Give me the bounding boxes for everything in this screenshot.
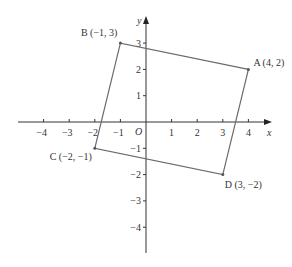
x-tick-label: 2 bbox=[195, 127, 200, 138]
x-tick-label: 3 bbox=[220, 127, 225, 138]
y-tick-label: −3 bbox=[130, 195, 141, 206]
vertex-c-label: C (−2, −1) bbox=[50, 151, 92, 163]
x-tick-label: −4 bbox=[36, 127, 47, 138]
vertices: A (4, 2)B (−1, 3)C (−2, −1)D (3, −2) bbox=[50, 27, 285, 191]
x-tick-label: 4 bbox=[246, 127, 251, 138]
vertex-d-label: D (3, −2) bbox=[225, 179, 262, 191]
vertex-c-dot bbox=[93, 147, 96, 150]
axes bbox=[18, 16, 272, 253]
vertex-a-label: A (4, 2) bbox=[253, 57, 284, 69]
x-tick-label: −1 bbox=[113, 127, 124, 138]
x-axis-arrow-icon bbox=[264, 119, 272, 125]
x-tick-label: −3 bbox=[62, 127, 73, 138]
y-tick-label: 1 bbox=[136, 90, 141, 101]
x-axis-label: x bbox=[266, 127, 272, 138]
y-tick-label: −4 bbox=[130, 222, 141, 233]
vertex-b-label: B (−1, 3) bbox=[81, 27, 117, 39]
y-tick-label: −1 bbox=[130, 143, 141, 154]
vertex-d-dot bbox=[221, 173, 224, 176]
y-axis-arrow-icon bbox=[143, 16, 149, 24]
origin-label: O bbox=[135, 126, 142, 137]
coordinate-plane: −4−3−2−11234 321−1−2−3−4 x y O A (4, 2)B… bbox=[0, 0, 292, 267]
x-tick-label: 1 bbox=[169, 127, 174, 138]
vertex-a-dot bbox=[247, 68, 250, 71]
quadrilateral-abcd bbox=[95, 43, 249, 175]
x-tick-label: −2 bbox=[87, 127, 98, 138]
y-tick-label: 2 bbox=[136, 64, 141, 75]
y-tick-label: −2 bbox=[130, 169, 141, 180]
vertex-b-dot bbox=[119, 42, 122, 45]
y-axis-label: y bbox=[136, 15, 142, 26]
